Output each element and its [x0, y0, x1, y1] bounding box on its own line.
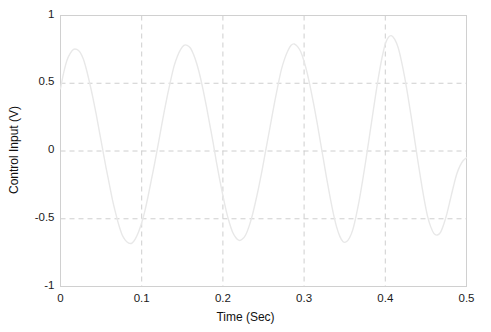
y-tick-label: 1: [48, 9, 54, 21]
y-tick-label: -0.5: [35, 212, 55, 224]
chart-figure: Control Input (V) Time (Sec) -1-0.500.51…: [0, 0, 491, 332]
x-tick-label: 0.4: [355, 293, 415, 305]
data-series: [61, 36, 467, 244]
grid-lines: [61, 16, 467, 287]
y-tick-label: 0: [48, 144, 54, 156]
plot-canvas: [0, 0, 491, 332]
x-tick-label: 0.5: [437, 293, 491, 305]
y-tick-label: 0.5: [39, 76, 55, 88]
x-tick-label: 0.1: [112, 293, 172, 305]
series-line-0: [61, 36, 467, 244]
x-tick-label: 0.3: [274, 293, 334, 305]
x-tick-label: 0: [31, 293, 91, 305]
x-tick-label: 0.2: [193, 293, 253, 305]
x-axis-label: Time (Sec): [0, 310, 491, 324]
y-axis-label: Control Input (V): [7, 106, 21, 194]
y-tick-label: -1: [44, 280, 54, 292]
